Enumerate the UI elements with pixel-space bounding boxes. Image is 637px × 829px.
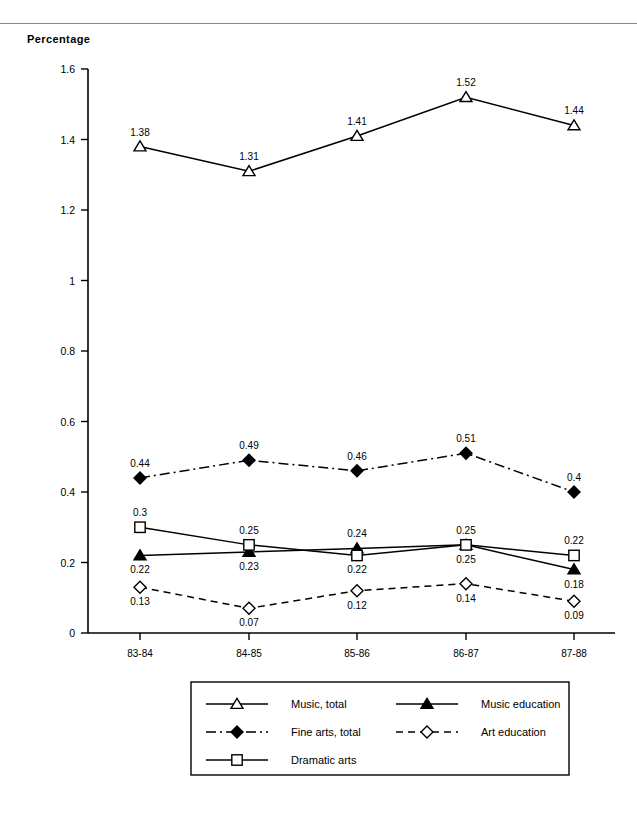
- data-point-label: 0.07: [239, 617, 259, 628]
- y-axis: 00.20.40.60.811.21.41.6: [60, 63, 88, 639]
- data-point-marker: [460, 447, 472, 459]
- data-point-marker: [351, 585, 363, 597]
- data-point-label: 1.31: [239, 151, 259, 162]
- legend-item-label: Music, total: [291, 698, 347, 710]
- legend-item: Dramatic arts: [206, 754, 357, 766]
- data-point-marker: [351, 465, 363, 477]
- data-point-label: 0.12: [347, 600, 367, 611]
- data-point-label: 0.22: [130, 564, 150, 575]
- legend: Music, totalMusic educationFine arts, to…: [191, 682, 569, 775]
- data-point-label: 1.38: [130, 127, 150, 138]
- y-axis-tick-label: 1.2: [60, 204, 75, 216]
- data-point-label: 0.14: [456, 593, 476, 604]
- line-chart: 00.20.40.60.811.21.41.6 83-8484-8585-868…: [0, 0, 637, 829]
- legend-item: Fine arts, total: [206, 726, 361, 738]
- data-point-label: 0.25: [456, 554, 476, 565]
- y-axis-tick-label: 0.4: [60, 486, 75, 498]
- data-point-marker: [351, 130, 363, 140]
- y-axis-tick-label: 0: [69, 627, 75, 639]
- data-point-label: 0.22: [564, 535, 584, 546]
- data-point-label: 0.23: [239, 561, 259, 572]
- legend-item: Music education: [396, 698, 561, 710]
- chart-page: Percentage 00.20.40.60.811.21.41.6 83-84…: [0, 0, 637, 829]
- x-axis-tick-label: 83-84: [127, 648, 153, 659]
- data-point-label: 0.51: [456, 433, 476, 444]
- data-point-label: 0.44: [130, 458, 150, 469]
- data-point-label: 1.41: [347, 116, 367, 127]
- data-point-label: 0.4: [567, 472, 581, 483]
- data-point-marker: [352, 550, 362, 560]
- legend-item-label: Music education: [481, 698, 561, 710]
- legend-item: Music, total: [206, 698, 347, 710]
- data-point-label: 1.52: [456, 77, 476, 88]
- data-point-marker: [460, 578, 472, 590]
- legend-item-label: Fine arts, total: [291, 726, 361, 738]
- x-axis-tick-label: 87-88: [561, 648, 587, 659]
- data-point-marker: [231, 726, 243, 738]
- data-point-label: 0.25: [456, 525, 476, 536]
- y-axis-tick-label: 0.8: [60, 345, 75, 357]
- data-point-label: 0.22: [347, 564, 367, 575]
- data-point-label: 0.3: [133, 507, 147, 518]
- y-axis-tick-label: 1: [69, 275, 75, 287]
- y-axis-tick-label: 0.2: [60, 557, 75, 569]
- data-point-marker: [244, 540, 254, 550]
- legend-item-label: Dramatic arts: [291, 754, 357, 766]
- data-point-label: 0.46: [347, 451, 367, 462]
- y-axis-tick-label: 1.6: [60, 63, 75, 75]
- x-axis: 83-8484-8585-8686-8787-88: [88, 633, 615, 659]
- data-point-marker: [243, 454, 255, 466]
- data-point-marker: [568, 486, 580, 498]
- y-axis-tick-label: 0.6: [60, 416, 75, 428]
- legend-item: Art education: [396, 726, 546, 738]
- data-point-label: 0.25: [239, 525, 259, 536]
- legend-item-label: Art education: [481, 726, 546, 738]
- data-point-marker: [461, 540, 471, 550]
- x-axis-tick-label: 86-87: [453, 648, 479, 659]
- data-point-marker: [232, 755, 242, 765]
- data-point-marker: [134, 141, 146, 151]
- data-point-marker: [243, 602, 255, 614]
- x-axis-tick-label: 84-85: [236, 648, 262, 659]
- data-point-marker: [421, 726, 433, 738]
- y-axis-tick-label: 1.4: [60, 134, 75, 146]
- x-axis-tick-label: 85-86: [344, 648, 370, 659]
- data-point-label: 0.24: [347, 528, 367, 539]
- data-point-label: 1.44: [564, 105, 584, 116]
- data-point-label: 0.49: [239, 440, 259, 451]
- data-point-label: 0.13: [130, 596, 150, 607]
- data-point-marker: [569, 550, 579, 560]
- data-point-marker: [134, 581, 146, 593]
- data-point-label: 0.09: [564, 610, 584, 621]
- data-point-marker: [460, 92, 472, 102]
- data-point-label: 0.18: [564, 579, 584, 590]
- data-point-marker: [568, 595, 580, 607]
- data-point-marker: [135, 522, 145, 532]
- data-point-marker: [134, 472, 146, 484]
